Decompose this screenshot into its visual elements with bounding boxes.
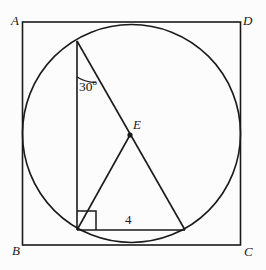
point-e-dot [127,132,132,137]
angle-measure-value: 30 [79,79,93,94]
point-label-e: E [133,118,141,131]
degree-symbol: o [93,77,98,87]
angle-measure-label: 30o [79,78,97,93]
base-length-label: 4 [125,213,132,226]
diagram-canvas: A D B C E 30o 4 [0,0,266,270]
geometry-figure [0,0,266,270]
vertex-label-b: B [12,244,20,257]
vertex-label-a: A [11,14,19,27]
vertex-label-d: D [243,14,252,27]
base-left-to-e-line [77,135,130,230]
vertex-label-c: C [244,245,253,258]
